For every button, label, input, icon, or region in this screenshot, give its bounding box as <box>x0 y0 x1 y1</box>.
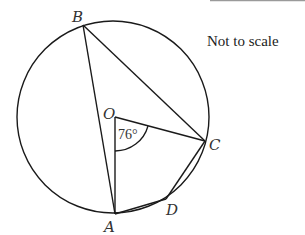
label-O: O <box>103 105 115 123</box>
segment-BC <box>83 25 205 141</box>
segment-AD <box>115 199 166 214</box>
angle-label: 76° <box>118 127 138 142</box>
label-C: C <box>209 136 221 154</box>
label-A: A <box>102 218 115 235</box>
label-B: B <box>71 8 83 26</box>
geometry-diagram: 76° Not to scale B O C D A <box>0 0 305 235</box>
segment-DC <box>166 141 205 199</box>
not-to-scale-note: Not to scale <box>207 33 279 49</box>
label-D: D <box>165 201 178 219</box>
